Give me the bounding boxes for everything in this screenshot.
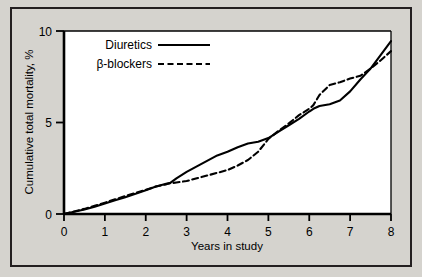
figure-container: 012345678 0510 Diuretics β-blockers Year… [0, 0, 422, 277]
y-axis-title: Cumulative total mortality, % [23, 50, 35, 195]
y-tick-label-2: 10 [39, 25, 53, 39]
y-axis-ticks: 0510 [39, 25, 64, 222]
y-tick-label-0: 0 [45, 208, 52, 222]
y-tick-label-1: 5 [45, 116, 52, 130]
x-tick-label-8: 8 [388, 225, 395, 239]
line-chart: 012345678 0510 Diuretics β-blockers Year… [0, 0, 422, 277]
legend-label-beta-blockers: β-blockers [96, 57, 152, 71]
x-tick-label-3: 3 [183, 225, 190, 239]
x-tick-label-6: 6 [306, 225, 313, 239]
x-axis-title: Years in study [191, 240, 263, 252]
legend-label-diuretics: Diuretics [105, 38, 152, 52]
x-tick-label-0: 0 [61, 225, 68, 239]
x-tick-label-1: 1 [102, 225, 109, 239]
x-tick-label-4: 4 [224, 225, 231, 239]
x-tick-label-2: 2 [142, 225, 149, 239]
x-axis-ticks: 012345678 [61, 214, 395, 239]
x-tick-label-7: 7 [347, 225, 354, 239]
x-tick-label-5: 5 [265, 225, 272, 239]
